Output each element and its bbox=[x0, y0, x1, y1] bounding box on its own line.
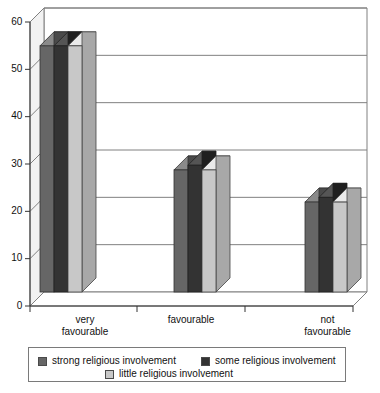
legend: strong religious involvement some religi… bbox=[28, 347, 346, 382]
legend-swatch-some-icon bbox=[201, 357, 210, 366]
y-tick-label-0: 0 bbox=[0, 301, 22, 311]
legend-item-strong: strong religious involvement bbox=[38, 356, 176, 366]
bar-chart: 60 50 40 30 20 10 0 very favourable favo… bbox=[0, 0, 380, 393]
legend-label-some: some religious involvement bbox=[215, 356, 336, 366]
bar-group-very-favourable bbox=[40, 32, 96, 292]
x-tick-label-not-favourable: not favourable bbox=[280, 314, 375, 337]
bar-little-favourable bbox=[202, 156, 230, 292]
y-tick-label-40: 40 bbox=[0, 111, 22, 121]
bar-little-not-favourable bbox=[333, 188, 361, 292]
legend-swatch-strong-icon bbox=[38, 357, 47, 366]
x-tick-label-favourable: favourable bbox=[141, 314, 241, 326]
x-tick-label-very-favourable: very favourable bbox=[35, 314, 135, 337]
legend-label-strong: strong religious involvement bbox=[52, 356, 176, 366]
plot-floor bbox=[30, 292, 367, 306]
legend-label-little: little religious involvement bbox=[119, 369, 233, 379]
y-tick-label-50: 50 bbox=[0, 64, 22, 74]
bar-group-favourable bbox=[174, 151, 230, 292]
bar-little-very-favourable bbox=[68, 32, 96, 292]
y-axis bbox=[25, 22, 30, 306]
x-axis bbox=[30, 306, 353, 312]
legend-item-some: some religious involvement bbox=[201, 356, 336, 366]
bar-group-not-favourable bbox=[305, 183, 361, 292]
legend-item-little: little religious involvement bbox=[105, 369, 233, 379]
y-tick-label-20: 20 bbox=[0, 206, 22, 216]
y-tick-label-60: 60 bbox=[0, 17, 22, 27]
y-tick-label-10: 10 bbox=[0, 253, 22, 263]
legend-swatch-little-icon bbox=[105, 370, 114, 379]
y-tick-label-30: 30 bbox=[0, 159, 22, 169]
